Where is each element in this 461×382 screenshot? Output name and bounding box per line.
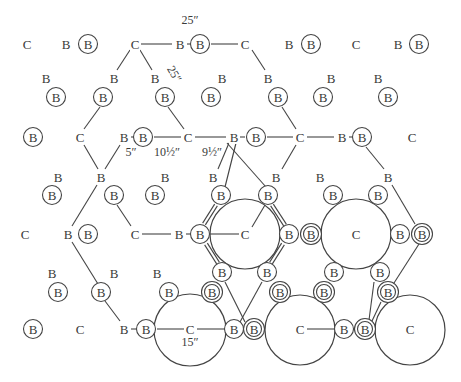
node-letter: B — [252, 130, 261, 145]
node-circled-b: B — [105, 186, 124, 205]
connector-line — [105, 301, 120, 321]
node-circled-b: B — [280, 225, 299, 244]
node-letter: B — [307, 227, 316, 242]
node-letter: B — [230, 130, 239, 145]
node-double-circled-b: B — [301, 224, 322, 245]
node-letter: B — [196, 37, 205, 52]
node-letter: B — [64, 227, 73, 242]
node-double-circled-b: B — [412, 224, 433, 245]
node-c: C — [75, 322, 85, 337]
node-letter: B — [84, 37, 93, 52]
connector-line — [72, 242, 98, 284]
node-letter: B — [161, 90, 170, 105]
node-circled-b: B — [213, 263, 232, 282]
node-letter: B — [52, 90, 61, 105]
node-c: C — [130, 37, 140, 52]
node-b: B — [208, 170, 218, 185]
node-letter: C — [241, 37, 250, 52]
node-c: C — [130, 227, 140, 242]
node-letter: B — [384, 285, 393, 300]
node-c: C — [183, 130, 193, 145]
node-letter: B — [418, 227, 427, 242]
node-b: B — [284, 37, 294, 52]
node-letter: B — [396, 227, 405, 242]
node-circled-b: B — [410, 35, 429, 54]
node-labels: CBBCBBCBBCBBBBBBBBBBBBBBBBBCBBCBBCBBCBBB… — [20, 35, 433, 340]
node-b: B — [109, 71, 119, 86]
node-letter: B — [151, 188, 160, 203]
node-letter: C — [406, 322, 415, 337]
node-letter: B — [176, 37, 185, 52]
node-letter: C — [408, 130, 417, 145]
node-double-circled-b: B — [202, 282, 223, 303]
node-letter: B — [62, 37, 71, 52]
node-b: B — [61, 37, 71, 52]
node-letter: B — [218, 71, 227, 86]
node-b: B — [119, 322, 129, 337]
dim-25-top: 25″ — [182, 13, 199, 27]
connector-line — [369, 282, 374, 320]
connector-line — [252, 50, 265, 70]
node-b: B — [150, 71, 160, 86]
node-circled-b: B — [92, 283, 111, 302]
node-b: B — [41, 71, 51, 86]
node-letter: B — [175, 227, 184, 242]
node-letter: B — [196, 227, 205, 242]
node-circled-b: B — [247, 128, 266, 147]
node-letter: B — [110, 71, 119, 86]
node-b: B — [217, 71, 227, 86]
node-letter: B — [54, 170, 63, 185]
node-letter: C — [352, 37, 361, 52]
node-circled-b: B — [324, 186, 343, 205]
node-b: B — [337, 130, 347, 145]
node-c: C — [295, 130, 305, 145]
double-rail-line — [273, 204, 286, 224]
connector-line — [394, 244, 419, 283]
node-circled-b: B — [258, 263, 277, 282]
connector-line — [72, 185, 97, 226]
node-letter: B — [374, 188, 383, 203]
node-letter: B — [264, 188, 273, 203]
node-letter: B — [361, 322, 370, 337]
dim-9-5: 9½″ — [202, 145, 222, 159]
node-b: B — [96, 170, 106, 185]
node-b: B — [315, 170, 325, 185]
node-letter: B — [316, 170, 325, 185]
node-letter: C — [131, 227, 140, 242]
node-circled-b: B — [371, 263, 390, 282]
node-circled-b: B — [335, 320, 354, 339]
node-letter: B — [99, 90, 108, 105]
node-letter: B — [374, 71, 383, 86]
node-letter: B — [48, 188, 57, 203]
connector-line — [392, 185, 415, 224]
node-circled-b: B — [259, 186, 278, 205]
node-circled-b: B — [24, 320, 43, 339]
node-b: B — [383, 170, 393, 185]
node-b: B — [175, 37, 185, 52]
node-circled-b: B — [353, 128, 372, 147]
node-letter: C — [352, 227, 361, 242]
node-c: C — [22, 37, 32, 52]
connector-line — [140, 50, 152, 70]
connector-line — [105, 145, 120, 169]
node-c: C — [405, 322, 415, 337]
node-letter: B — [338, 130, 347, 145]
node-circled-b: B — [49, 283, 68, 302]
node-double-circled-b: B — [355, 319, 376, 340]
node-letter: B — [285, 227, 294, 242]
node-b: B — [160, 170, 170, 185]
node-letter: B — [208, 285, 217, 300]
node-letter: B — [384, 90, 393, 105]
node-letter: B — [330, 265, 339, 280]
node-b: B — [47, 266, 57, 281]
node-letter: B — [120, 130, 129, 145]
dim-5: 5″ — [126, 145, 137, 159]
node-circled-b: B — [134, 128, 153, 147]
node-double-circled-b: B — [270, 282, 291, 303]
node-letter: B — [272, 170, 281, 185]
node-circled-b: B — [269, 88, 288, 107]
node-letter: B — [327, 71, 336, 86]
node-letter: B — [230, 322, 239, 337]
node-letter: B — [218, 265, 227, 280]
node-letter: B — [110, 266, 119, 281]
